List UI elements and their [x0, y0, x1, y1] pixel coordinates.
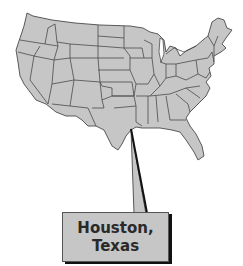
location-callout: Houston, Texas [62, 212, 169, 262]
callout-city: Houston, [77, 219, 153, 237]
callout-state: Texas [92, 237, 139, 255]
